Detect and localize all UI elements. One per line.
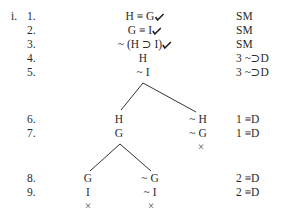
formula-line-1: H ≡ G — [126, 10, 165, 23]
branch-right-line-9: ~ I — [144, 186, 157, 199]
justification: SM — [236, 38, 253, 51]
justification: 3 ~⊃D — [236, 52, 269, 65]
justification: 1 ≡D — [236, 127, 259, 140]
justification: 3 ~⊃D — [236, 66, 269, 79]
justification: SM — [236, 24, 253, 37]
check-mark-icon — [162, 41, 172, 49]
branch-left-line-7: G — [115, 127, 123, 140]
closed-branch-marker: × — [198, 141, 205, 154]
branch-right-line-7: ~ G — [189, 127, 206, 140]
branch-right-line-6: ~ H — [189, 113, 206, 126]
formula-line-3: ~ (H ⊃ I) — [118, 38, 172, 51]
formula-line-4: H — [139, 52, 147, 65]
formula-line-2: G ≡ I — [128, 24, 162, 37]
justification: 2 ≡D — [236, 186, 259, 199]
justification: 1 ≡D — [236, 113, 259, 126]
line-number: 6. — [27, 113, 36, 126]
justification: SM — [236, 10, 253, 23]
line-number: 9. — [27, 186, 36, 199]
line-number: 2. — [27, 24, 36, 37]
branch-left-line-6: H — [115, 113, 123, 126]
line-number: 4. — [27, 52, 36, 65]
check-mark-icon — [152, 27, 162, 35]
branch-left-line-8: G — [84, 172, 92, 185]
closed-branch-marker: × — [85, 200, 92, 213]
check-mark-icon — [154, 13, 164, 21]
line-number: 7. — [27, 127, 36, 140]
justification: 2 ≡D — [236, 172, 259, 185]
closed-branch-marker: × — [148, 200, 155, 213]
problem-label: i. — [11, 10, 17, 23]
line-number: 1. — [27, 10, 36, 23]
line-number: 3. — [27, 38, 36, 51]
line-number: 5. — [27, 66, 36, 79]
line-number: 8. — [27, 172, 36, 185]
branch-right-line-8: ~ G — [141, 172, 158, 185]
formula-line-5: ~ I — [137, 66, 150, 79]
branch-left-line-9: I — [86, 186, 90, 199]
